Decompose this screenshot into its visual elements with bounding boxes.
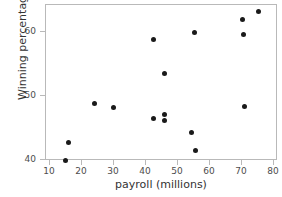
x-tick-label: 20 [69,166,93,176]
data-point [189,130,194,135]
scatter-plot-figure: 1020304050607080 405060 payroll (million… [0,0,282,197]
x-tick-label: 80 [261,166,282,176]
x-tick-mark [273,160,274,165]
x-tick-label: 70 [229,166,253,176]
x-tick-mark [209,160,210,165]
x-tick-label: 40 [133,166,157,176]
y-tick-mark [40,31,45,32]
y-axis-label: Winning percentage [16,0,29,110]
data-point [192,30,197,35]
y-tick-mark [40,159,45,160]
data-point [193,148,198,153]
x-tick-mark [241,160,242,165]
y-tick-label: 40 [16,154,36,164]
data-point [63,158,68,163]
y-tick-mark [40,95,45,96]
x-tick-label: 60 [197,166,221,176]
x-axis-label: payroll (millions) [45,178,277,191]
x-tick-mark [113,160,114,165]
x-tick-mark [49,160,50,165]
plot-area [45,4,277,160]
x-tick-mark [177,160,178,165]
data-point [242,104,247,109]
x-tick-mark [145,160,146,165]
x-tick-mark [81,160,82,165]
x-tick-label: 10 [37,166,61,176]
data-point [162,118,167,123]
x-tick-label: 50 [165,166,189,176]
x-tick-label: 30 [101,166,125,176]
data-point [151,116,156,121]
